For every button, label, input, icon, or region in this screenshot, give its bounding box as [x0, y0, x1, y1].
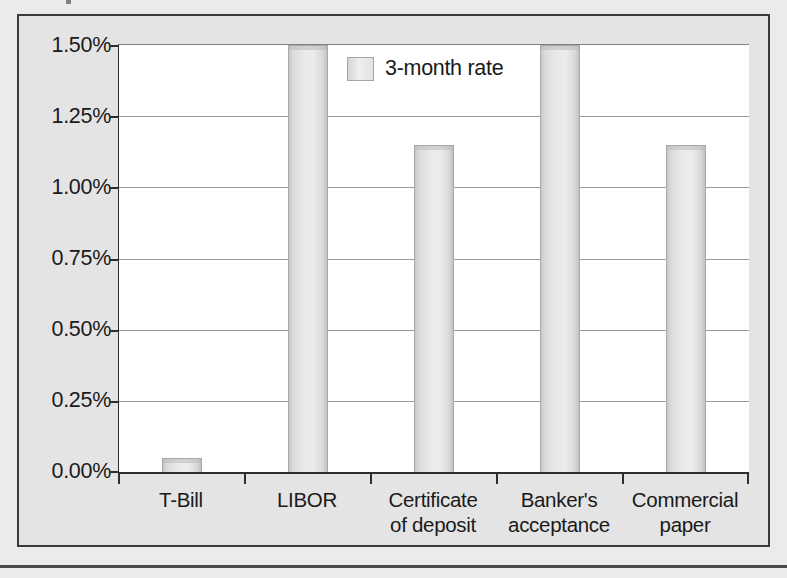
y-axis-tick-label: 0.50%: [19, 317, 111, 342]
y-axis-tick-label: 1.50%: [19, 33, 111, 58]
x-axis-category-certificate-of-deposit: Certificate of deposit: [370, 487, 496, 537]
y-axis-tick: [110, 187, 119, 189]
figure-frame: 1.50% 1.25% 1.00% 0.75% 0.50% 0.25% 0.00…: [17, 14, 770, 547]
y-axis-tick: [110, 259, 119, 261]
bar-certificate-of-deposit[interactable]: [414, 145, 454, 472]
x-axis-category-bankers-acceptance: Banker's acceptance: [496, 487, 622, 537]
bar-bankers-acceptance[interactable]: [540, 45, 580, 472]
y-axis-tick-label: 1.00%: [19, 175, 111, 200]
gridline: [119, 116, 749, 117]
y-axis-tick: [110, 401, 119, 403]
x-axis-tick: [622, 473, 624, 484]
plot-area: 3-month rate: [118, 44, 749, 472]
x-axis-tick: [747, 473, 749, 484]
x-axis-tick: [244, 473, 246, 484]
x-axis-category-libor: LIBOR: [244, 487, 370, 512]
x-axis: T-Bill LIBOR Certificate of deposit Bank…: [118, 473, 749, 547]
x-axis-category-t-bill: T-Bill: [118, 487, 244, 512]
y-axis-tick-label: 0.25%: [19, 388, 111, 413]
x-axis-category-line1: T-Bill: [159, 488, 203, 511]
cropped-text-artifact: [66, 0, 71, 4]
y-axis-tick: [110, 330, 119, 332]
x-axis-tick: [118, 473, 120, 484]
y-axis: 1.50% 1.25% 1.00% 0.75% 0.50% 0.25% 0.00…: [12, 46, 111, 473]
y-axis-tick: [110, 45, 119, 47]
legend: 3-month rate: [347, 56, 503, 81]
bar-libor[interactable]: [288, 45, 328, 472]
page-bottom-rule: [0, 565, 787, 568]
y-axis-tick-label: 0.00%: [19, 459, 111, 484]
x-axis-category-commercial-paper: Commercial paper: [622, 487, 748, 537]
y-axis-tick: [110, 116, 119, 118]
x-axis-category-line2: acceptance: [496, 512, 622, 537]
y-axis-tick-label: 1.25%: [19, 104, 111, 129]
x-axis-category-line1: Commercial: [632, 488, 738, 511]
legend-swatch-3-month-rate: [347, 57, 374, 81]
x-axis-category-line2: paper: [622, 512, 748, 537]
x-axis-category-line1: Certificate: [389, 488, 478, 511]
x-axis-category-line1: LIBOR: [277, 488, 337, 511]
x-axis-category-line1: Banker's: [521, 488, 598, 511]
y-axis-tick-label: 0.75%: [19, 246, 111, 271]
bar-t-bill[interactable]: [162, 458, 202, 472]
x-axis-category-line2: of deposit: [370, 512, 496, 537]
x-axis-tick: [370, 473, 372, 484]
page-background: 1.50% 1.25% 1.00% 0.75% 0.50% 0.25% 0.00…: [0, 0, 787, 578]
legend-label-3-month-rate: 3-month rate: [385, 56, 503, 81]
bar-commercial-paper[interactable]: [666, 145, 706, 472]
x-axis-tick: [496, 473, 498, 484]
